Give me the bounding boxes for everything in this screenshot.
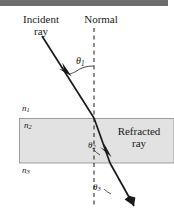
theta1-leader	[70, 72, 75, 74]
label-angle-theta3: θ3	[93, 183, 101, 193]
label-incident-ray-line1: Incident	[23, 13, 59, 25]
label-theta1-subscript: 1	[81, 60, 85, 68]
label-refractive-index-n2: n2	[24, 121, 32, 131]
label-n1-subscript: 1	[27, 106, 30, 113]
physics-refraction-figure: Incident ray Normal Refracted ray n1 n2 …	[0, 0, 174, 211]
label-refracted-ray-line1: Refracted	[118, 125, 161, 137]
label-n3-subscript: 3	[27, 168, 30, 175]
label-angle-theta1: θ1	[76, 56, 85, 68]
label-n2-subscript: 2	[29, 123, 32, 130]
label-refractive-index-n1: n1	[22, 104, 30, 114]
label-refracted-ray: Refracted ray	[108, 126, 170, 149]
label-normal: Normal	[73, 14, 129, 26]
label-refractive-index-n3: n3	[22, 166, 30, 176]
label-incident-ray-line2: ray	[34, 25, 48, 37]
angle-arc-theta3	[104, 189, 111, 194]
incident-ray-line	[42, 36, 94, 118]
label-normal-text: Normal	[84, 13, 118, 25]
label-incident-ray: Incident ray	[12, 14, 70, 37]
label-refracted-ray-line2: ray	[132, 137, 146, 149]
label-theta2-subscript: 2	[92, 143, 95, 150]
label-angle-theta2: θ2	[88, 141, 96, 151]
exit-ray-arrowhead	[125, 196, 136, 206]
label-theta3-subscript: 3	[97, 185, 100, 192]
